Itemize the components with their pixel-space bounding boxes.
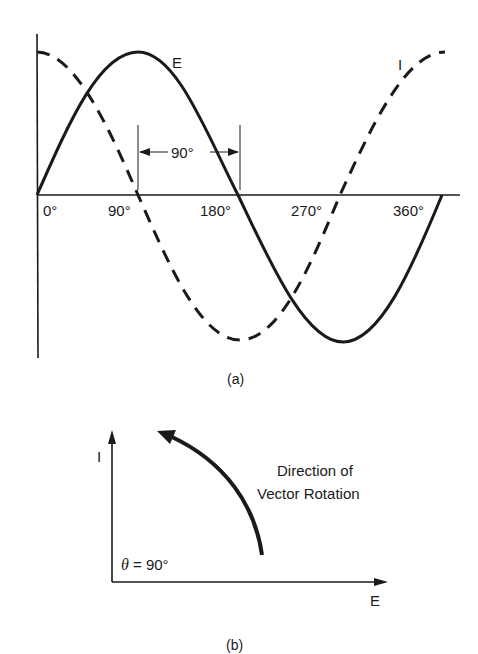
b-horizontal-arrow-icon [374, 578, 388, 586]
phase-marker-left-arrow-icon [139, 148, 150, 156]
e-voltage-curve [37, 52, 442, 342]
rotation-note-line1: Direction of [277, 462, 354, 479]
x-tick-270: 270° [291, 202, 322, 219]
figure-canvas: E I 90° 0° 90° 180° 270° 360° (a) I E Di… [0, 0, 478, 654]
x-tick-0: 0° [43, 202, 57, 219]
i-current-curve [37, 52, 445, 340]
b-vertical-arrow-icon [108, 430, 116, 444]
figure-a-caption: (a) [227, 371, 244, 387]
a-vertical-axis [37, 34, 38, 358]
figure-b: I E Direction of Vector Rotation θ = 90°… [97, 430, 388, 653]
rotation-note-line2: Vector Rotation [257, 485, 360, 502]
phase-marker-right-arrow-icon [228, 148, 239, 156]
angle-value: = 90° [133, 556, 169, 573]
figure-a: E I 90° 0° 90° 180° 270° 360° (a) [37, 34, 460, 387]
e-curve-label: E [172, 54, 182, 71]
rotation-arc [172, 437, 262, 555]
angle-symbol: θ [121, 556, 129, 573]
i-curve-label: I [398, 56, 402, 73]
b-y-axis-label: I [97, 448, 101, 465]
x-tick-180: 180° [200, 202, 231, 219]
x-tick-360: 360° [393, 202, 424, 219]
phase-marker-label: 90° [171, 144, 194, 161]
figure-b-caption: (b) [226, 637, 243, 653]
b-x-axis-label: E [370, 592, 380, 609]
x-tick-90: 90° [108, 202, 131, 219]
